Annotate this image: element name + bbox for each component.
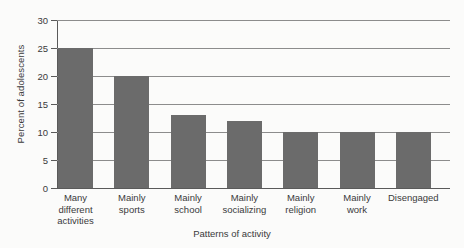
x-tick-label-line: activities	[44, 215, 108, 227]
x-tick-label-line: school	[156, 204, 220, 216]
bar	[171, 115, 206, 188]
gridline-30	[57, 20, 450, 21]
bar	[396, 132, 431, 188]
x-tick-label-line: religion	[269, 204, 333, 216]
y-tick-mark-0	[51, 188, 57, 189]
y-tick-label-20: 20	[37, 71, 48, 82]
bar	[227, 121, 262, 188]
y-tick-mark-25	[51, 48, 57, 49]
y-tick-label-5: 5	[43, 155, 48, 166]
bar	[58, 48, 93, 188]
x-tick-label: Mainlyschool	[156, 192, 220, 215]
bar	[283, 132, 318, 188]
x-axis-title: Patterns of activity	[0, 228, 464, 239]
y-tick-mark-5	[51, 160, 57, 161]
gridline-25	[57, 48, 450, 49]
x-tick-label-line: socializing	[212, 204, 276, 216]
x-tick-label: Mainlywork	[325, 192, 389, 215]
x-tick-label-line: Mainly	[100, 192, 164, 204]
x-tick-label-line: sports	[100, 204, 164, 216]
y-tick-label-10: 10	[37, 127, 48, 138]
bar	[340, 132, 375, 188]
x-tick-label-line: Mainly	[269, 192, 333, 204]
x-tick-label-line: Mainly	[212, 192, 276, 204]
y-axis-title: Percent of adolescents	[10, 0, 30, 188]
gridline-0	[57, 188, 450, 189]
x-tick-label-line: Many	[44, 192, 108, 204]
x-tick-label: Mainlysports	[100, 192, 164, 215]
y-tick-label-30: 30	[37, 15, 48, 26]
y-tick-mark-15	[51, 104, 57, 105]
plot-area: 051015202530	[57, 20, 450, 188]
x-tick-label: Manydifferentactivities	[44, 192, 108, 227]
x-tick-label: Mainlyreligion	[269, 192, 333, 215]
y-tick-label-15: 15	[37, 99, 48, 110]
x-tick-label-line: Mainly	[325, 192, 389, 204]
x-tick-label-line: different	[44, 204, 108, 216]
bar	[114, 76, 149, 188]
x-tick-label-line: work	[325, 204, 389, 216]
x-tick-label: Disengaged	[381, 192, 445, 204]
x-tick-label-line: Disengaged	[381, 192, 445, 204]
x-tick-label-line: Mainly	[156, 192, 220, 204]
y-tick-mark-30	[51, 20, 57, 21]
y-tick-mark-20	[51, 76, 57, 77]
y-tick-label-25: 25	[37, 43, 48, 54]
x-tick-label: Mainlysocializing	[212, 192, 276, 215]
bar-chart-figure: Percent of adolescents 051015202530 Many…	[0, 0, 464, 248]
y-tick-mark-10	[51, 132, 57, 133]
